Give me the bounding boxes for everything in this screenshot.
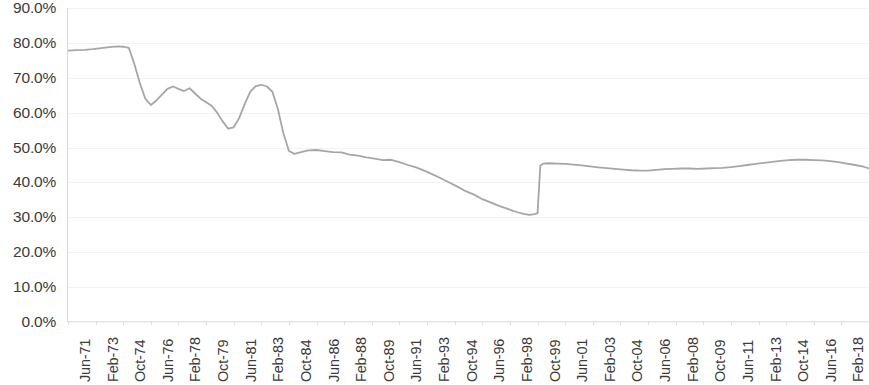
x-tick-mark [565,321,566,325]
x-tick-mark [841,321,842,325]
y-tick-label: 0.0% [0,314,56,330]
y-tick-label: 30.0% [0,209,56,225]
x-tick-mark [372,321,373,325]
plot-area [68,8,869,322]
x-tick-label: Oct-94 [465,340,480,382]
x-tick-label: Jun-76 [161,339,176,382]
x-tick-mark [731,321,732,325]
x-tick-mark [261,321,262,325]
x-tick-label: Feb-83 [271,337,286,382]
x-tick-mark [206,321,207,325]
x-tick-label: Oct-79 [216,340,231,382]
x-axis-line [68,321,869,322]
x-tick-label: Feb-98 [520,337,535,382]
x-tick-label: Oct-89 [382,340,397,382]
x-tick-label: Jun-91 [409,339,424,382]
x-tick-label: Jun-01 [575,339,590,382]
x-tick-mark [759,321,760,325]
x-tick-mark [68,321,69,325]
x-tick-mark [538,321,539,325]
y-tick-label: 70.0% [0,70,56,86]
x-tick-label: Oct-99 [548,340,563,382]
x-tick-mark [676,321,677,325]
x-tick-label: Oct-84 [299,340,314,382]
x-tick-mark [648,321,649,325]
x-tick-mark [178,321,179,325]
x-tick-mark [703,321,704,325]
series-line-group [68,8,869,322]
x-tick-mark [234,321,235,325]
x-tick-mark [593,321,594,325]
x-tick-label: Jun-96 [492,339,507,382]
x-tick-mark [427,321,428,325]
gridline [68,322,869,323]
x-tick-label: Jun-71 [78,339,93,382]
x-axis: Jun-71Feb-73Oct-74Jun-76Feb-78Oct-79Jun-… [68,325,869,385]
x-tick-mark [399,321,400,325]
x-tick-label: Oct-09 [713,340,728,382]
x-tick-label: Jun-16 [824,339,839,382]
x-tick-label: Jun-11 [741,340,756,382]
line-chart: 90.0%80.0%70.0%60.0%50.0%40.0%30.0%20.0%… [0,0,869,385]
series-line-1 [68,46,869,215]
x-tick-label: Feb-08 [686,337,701,382]
x-tick-label: Oct-14 [796,340,811,382]
x-tick-label: Feb-88 [354,337,369,382]
x-tick-mark [151,321,152,325]
x-tick-label: Feb-78 [188,337,203,382]
x-tick-label: Feb-03 [603,337,618,382]
x-tick-label: Oct-04 [630,340,645,382]
y-axis-line [67,8,68,322]
x-tick-label: Jun-86 [327,339,342,382]
x-tick-label: Feb-13 [769,337,784,382]
y-tick-label: 60.0% [0,105,56,121]
y-tick-label: 40.0% [0,174,56,190]
x-tick-mark [96,321,97,325]
x-tick-mark [510,321,511,325]
y-tick-label: 90.0% [0,0,56,16]
x-tick-mark [344,321,345,325]
x-tick-mark [289,321,290,325]
x-tick-mark [123,321,124,325]
y-tick-label: 20.0% [0,244,56,260]
y-tick-label: 80.0% [0,35,56,51]
x-tick-mark [455,321,456,325]
x-tick-label: Oct-74 [133,340,148,382]
x-tick-mark [786,321,787,325]
x-tick-mark [620,321,621,325]
x-tick-label: Feb-18 [851,337,866,382]
x-tick-label: Jun-81 [244,339,259,382]
x-tick-mark [814,321,815,325]
x-tick-mark [482,321,483,325]
y-tick-label: 50.0% [0,140,56,156]
y-tick-label: 10.0% [0,279,56,295]
x-tick-mark [317,321,318,325]
x-tick-label: Feb-73 [106,337,121,382]
y-axis: 90.0%80.0%70.0%60.0%50.0%40.0%30.0%20.0%… [0,0,62,385]
x-tick-label: Feb-93 [437,337,452,382]
x-tick-label: Jun-06 [658,339,673,382]
